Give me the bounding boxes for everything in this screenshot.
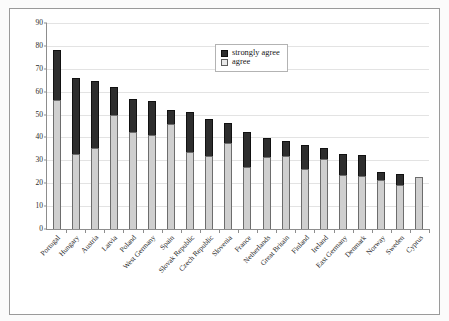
stacked-bar[interactable] xyxy=(148,101,156,229)
bar-segment-agree[interactable] xyxy=(263,157,271,229)
bar-slot xyxy=(372,23,391,229)
bar-segment-strongly-agree[interactable] xyxy=(358,155,366,177)
bar-segment-agree[interactable] xyxy=(282,156,290,229)
stacked-bar[interactable] xyxy=(263,138,271,229)
bar-segment-agree[interactable] xyxy=(205,156,213,229)
bar-slot xyxy=(85,23,104,229)
y-axis-tick-label: 40 xyxy=(36,134,44,142)
x-axis-labels-group: PortugalHungaryAustriaLatviaPolandWest G… xyxy=(46,230,429,314)
x-axis-category-label: Sweden xyxy=(385,234,406,256)
x-axis-category-label: Norway xyxy=(365,234,387,257)
x-axis-category-label: Finland xyxy=(290,234,310,255)
bar-segment-agree[interactable] xyxy=(129,132,137,230)
legend-entry-strongly-agree: strongly agree xyxy=(221,49,280,57)
bar-segment-strongly-agree[interactable] xyxy=(263,138,271,157)
light-square-swatch-icon xyxy=(221,59,228,66)
x-axis-category-label: Austria xyxy=(80,234,100,254)
chart-legend: strongly agree agree xyxy=(215,44,288,72)
stacked-bar[interactable] xyxy=(282,141,290,229)
stacked-bar[interactable] xyxy=(320,148,328,229)
bar-segment-strongly-agree[interactable] xyxy=(377,172,385,180)
bar-segment-agree[interactable] xyxy=(320,159,328,229)
y-axis-tick-label: 60 xyxy=(36,88,44,96)
chart-figure: 0102030405060708090 PortugalHungaryAustr… xyxy=(0,0,449,321)
y-axis-tick-label: 20 xyxy=(36,179,44,187)
y-axis-tick-label: 80 xyxy=(36,42,44,50)
bar-segment-strongly-agree[interactable] xyxy=(243,132,251,167)
legend-entry-agree: agree xyxy=(221,58,280,66)
bar-slot xyxy=(162,23,181,229)
stacked-bar[interactable] xyxy=(415,177,423,229)
bar-segment-agree[interactable] xyxy=(301,169,309,229)
bar-slot xyxy=(314,23,333,229)
y-axis-tick-label: 90 xyxy=(36,19,44,27)
bar-slot xyxy=(181,23,200,229)
bar-segment-agree[interactable] xyxy=(339,175,347,229)
stacked-bar[interactable] xyxy=(72,77,80,229)
bar-segment-agree[interactable] xyxy=(377,180,385,229)
stacked-bar[interactable] xyxy=(243,132,251,229)
bar-slot xyxy=(391,23,410,229)
chart-frame: 0102030405060708090 PortugalHungaryAustr… xyxy=(9,8,440,315)
bar-segment-strongly-agree[interactable] xyxy=(148,101,156,135)
stacked-bar[interactable] xyxy=(167,110,175,229)
legend-label-agree: agree xyxy=(232,58,250,66)
stacked-bar[interactable] xyxy=(224,123,232,229)
bar-slot xyxy=(295,23,314,229)
bar-segment-strongly-agree[interactable] xyxy=(301,145,309,169)
bar-segment-strongly-agree[interactable] xyxy=(282,141,290,156)
bar-segment-strongly-agree[interactable] xyxy=(91,81,99,148)
y-axis-tick-label: 30 xyxy=(36,157,44,165)
bar-segment-agree[interactable] xyxy=(358,176,366,229)
bar-segment-strongly-agree[interactable] xyxy=(186,112,194,152)
bar-segment-strongly-agree[interactable] xyxy=(129,99,137,132)
bar-slot xyxy=(47,23,66,229)
stacked-bar[interactable] xyxy=(53,50,61,229)
stacked-bar[interactable] xyxy=(358,155,366,229)
bar-segment-agree[interactable] xyxy=(186,152,194,229)
bar-slot xyxy=(353,23,372,229)
stacked-bar[interactable] xyxy=(205,119,213,229)
stacked-bar[interactable] xyxy=(110,87,118,229)
legend-label-strongly-agree: strongly agree xyxy=(232,49,280,57)
y-axis-tick-label: 70 xyxy=(36,65,44,73)
bar-slot xyxy=(104,23,123,229)
bar-segment-agree[interactable] xyxy=(243,167,251,229)
bar-slot xyxy=(410,23,429,229)
stacked-bar[interactable] xyxy=(186,112,194,229)
bar-slot xyxy=(66,23,85,229)
stacked-bar[interactable] xyxy=(91,81,99,229)
bar-segment-agree[interactable] xyxy=(415,177,423,229)
bar-segment-agree[interactable] xyxy=(53,100,61,229)
bar-segment-strongly-agree[interactable] xyxy=(72,78,80,155)
bar-segment-agree[interactable] xyxy=(396,185,404,229)
bar-slot xyxy=(142,23,161,229)
bar-segment-agree[interactable] xyxy=(72,154,80,229)
x-axis-category-label: Latvia xyxy=(100,234,118,253)
bar-segment-strongly-agree[interactable] xyxy=(224,123,232,144)
stacked-bar[interactable] xyxy=(339,154,347,229)
bar-segment-strongly-agree[interactable] xyxy=(396,174,404,185)
y-axis-tick-label: 50 xyxy=(36,111,44,119)
x-axis-category-label: Cyprus xyxy=(405,234,425,254)
y-axis-tick-label: 10 xyxy=(36,202,44,210)
bar-segment-agree[interactable] xyxy=(224,143,232,229)
bar-slot xyxy=(333,23,352,229)
bar-segment-strongly-agree[interactable] xyxy=(53,50,61,99)
bar-segment-strongly-agree[interactable] xyxy=(167,110,175,124)
stacked-bar[interactable] xyxy=(377,172,385,229)
bar-slot xyxy=(123,23,142,229)
bar-segment-strongly-agree[interactable] xyxy=(339,154,347,175)
bar-segment-agree[interactable] xyxy=(91,148,99,229)
bar-segment-strongly-agree[interactable] xyxy=(110,87,118,115)
bar-segment-strongly-agree[interactable] xyxy=(320,148,328,159)
bar-segment-agree[interactable] xyxy=(148,135,156,229)
dark-square-swatch-icon xyxy=(221,50,228,57)
stacked-bar[interactable] xyxy=(396,174,404,229)
stacked-bar[interactable] xyxy=(129,99,137,229)
bar-segment-agree[interactable] xyxy=(110,115,118,229)
bar-segment-agree[interactable] xyxy=(167,124,175,229)
x-axis-tick-mark xyxy=(429,229,430,233)
bar-segment-strongly-agree[interactable] xyxy=(205,119,213,156)
stacked-bar[interactable] xyxy=(301,145,309,229)
